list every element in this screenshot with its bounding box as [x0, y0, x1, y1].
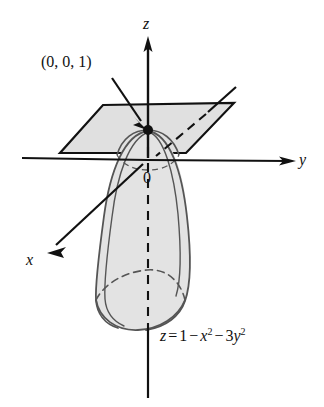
equation-minus-first: − [187, 327, 200, 344]
equation-y-exponent: 2 [241, 326, 246, 337]
parabolic-surface-figure: z y x 0 (0, 0, 1) z=1−x2−3y2 [0, 0, 324, 407]
x-axis-label: x [26, 252, 33, 268]
equation-minus-second: − [212, 327, 225, 344]
y-axis-label: y [299, 152, 306, 168]
y-axis-positive [148, 160, 288, 161]
surface-equation-label: z=1−x2−3y2 [160, 328, 246, 344]
origin-label: 0 [143, 170, 151, 186]
equation-equals: = [166, 327, 179, 344]
vertex-point-label: (0, 0, 1) [41, 54, 92, 70]
x-axis-arrowhead [47, 247, 66, 258]
equation-y-term: y [233, 327, 240, 344]
z-axis-label: z [143, 16, 149, 32]
vertex-dot [143, 125, 153, 135]
